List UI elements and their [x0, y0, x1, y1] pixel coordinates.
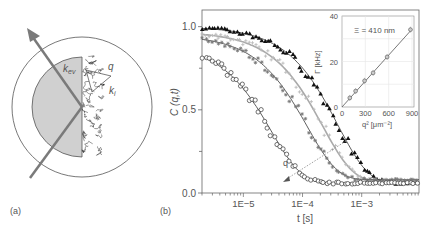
data-point — [327, 180, 331, 184]
y-tick-label: 1.0 — [182, 21, 196, 32]
data-point — [211, 34, 214, 37]
data-point — [297, 65, 302, 69]
q-direction-arrow — [285, 141, 346, 180]
q-arrowhead-icon — [283, 176, 290, 182]
data-point — [346, 176, 350, 180]
data-point — [216, 26, 221, 30]
polymer-chain — [98, 130, 102, 134]
data-point — [281, 147, 285, 151]
inset-y-tick-label: 20 — [330, 58, 338, 67]
data-point — [268, 134, 272, 138]
data-point — [318, 91, 323, 95]
data-point — [298, 90, 301, 93]
polymer-chain — [92, 69, 99, 79]
data-point — [321, 101, 326, 105]
data-point — [396, 177, 400, 181]
polymer-chain — [82, 109, 88, 113]
data-point — [290, 95, 294, 99]
data-point — [223, 45, 227, 49]
data-point — [272, 75, 276, 79]
data-point — [341, 172, 345, 176]
data-point — [263, 119, 267, 123]
data-point — [270, 58, 273, 61]
main-y-axis-label: C (q,t) — [169, 88, 180, 116]
data-point — [259, 108, 263, 112]
data-point — [281, 62, 284, 65]
polymer-chain — [86, 98, 91, 103]
figure: kev q ki (a) (b) 0.00.51.0 1E−51E−41E−3 … — [0, 0, 431, 242]
data-point — [281, 89, 285, 93]
data-point — [241, 43, 244, 46]
data-point — [260, 60, 264, 64]
data-point — [287, 49, 292, 53]
inset-data-point — [371, 71, 375, 75]
data-point — [380, 182, 384, 186]
data-point — [374, 181, 378, 185]
polymer-chain — [96, 109, 103, 111]
data-point — [337, 170, 341, 174]
polymer-chain — [83, 92, 91, 97]
data-point — [247, 31, 252, 35]
data-point — [266, 49, 269, 52]
data-point — [229, 70, 233, 74]
data-point — [284, 93, 288, 97]
data-point — [304, 117, 308, 121]
data-point — [325, 156, 329, 160]
inset-x-tick-label: 0 — [340, 109, 344, 118]
data-point — [297, 104, 301, 108]
data-point — [220, 62, 224, 66]
inset-y-tick-label: 0 — [334, 103, 338, 112]
panel-a: kev q ki (a) — [10, 28, 152, 216]
data-point — [358, 180, 362, 184]
panel-b-label: (b) — [160, 206, 171, 216]
polymer-chain — [98, 96, 104, 99]
data-point — [266, 70, 270, 74]
q-label: q — [108, 61, 114, 72]
data-point — [327, 161, 331, 165]
main-x-axis: 1E−51E−41E−3 — [202, 193, 418, 209]
inset-data-point — [354, 89, 358, 93]
data-point — [200, 36, 204, 40]
data-point — [309, 178, 313, 182]
main-y-axis: 0.00.51.0 — [182, 21, 202, 198]
inset-chart: 020400300600900 Ξ = 410 nm Γ [kHz] q² [μ… — [313, 12, 418, 129]
data-point — [251, 41, 254, 44]
polymer-chain — [86, 105, 94, 107]
data-point — [265, 126, 269, 130]
data-point — [310, 75, 315, 79]
data-point — [275, 77, 279, 81]
data-point — [346, 136, 351, 140]
x-tick-label: 1E−4 — [291, 198, 313, 209]
polymer-chain — [96, 135, 102, 138]
data-point — [210, 40, 214, 44]
data-point — [205, 37, 209, 41]
polymer-chain — [89, 56, 95, 58]
data-point — [321, 180, 325, 184]
data-point — [244, 49, 248, 53]
inset-x-tick-label: 900 — [406, 109, 419, 118]
data-point — [254, 61, 258, 65]
data-point — [307, 95, 310, 98]
data-point — [217, 42, 221, 46]
data-point — [228, 45, 232, 49]
data-point — [222, 66, 226, 70]
data-point — [415, 181, 419, 185]
data-point — [299, 69, 304, 73]
data-point — [313, 139, 317, 143]
data-point — [207, 40, 211, 44]
data-point — [350, 175, 354, 179]
data-point — [236, 49, 240, 53]
data-point — [285, 152, 289, 156]
y-tick-label: 0.5 — [182, 104, 196, 115]
inset-x-axis-label: q² [μm⁻²] — [362, 120, 392, 129]
data-point — [331, 165, 335, 169]
data-point — [214, 39, 218, 43]
data-point — [279, 85, 283, 89]
inset-data-point — [409, 28, 413, 32]
polymer-chain — [84, 114, 86, 117]
inset-data-point — [363, 79, 367, 83]
inset-x-tick-label: 300 — [359, 109, 372, 118]
data-point — [240, 82, 244, 86]
data-point — [273, 135, 277, 139]
data-point — [232, 47, 236, 51]
